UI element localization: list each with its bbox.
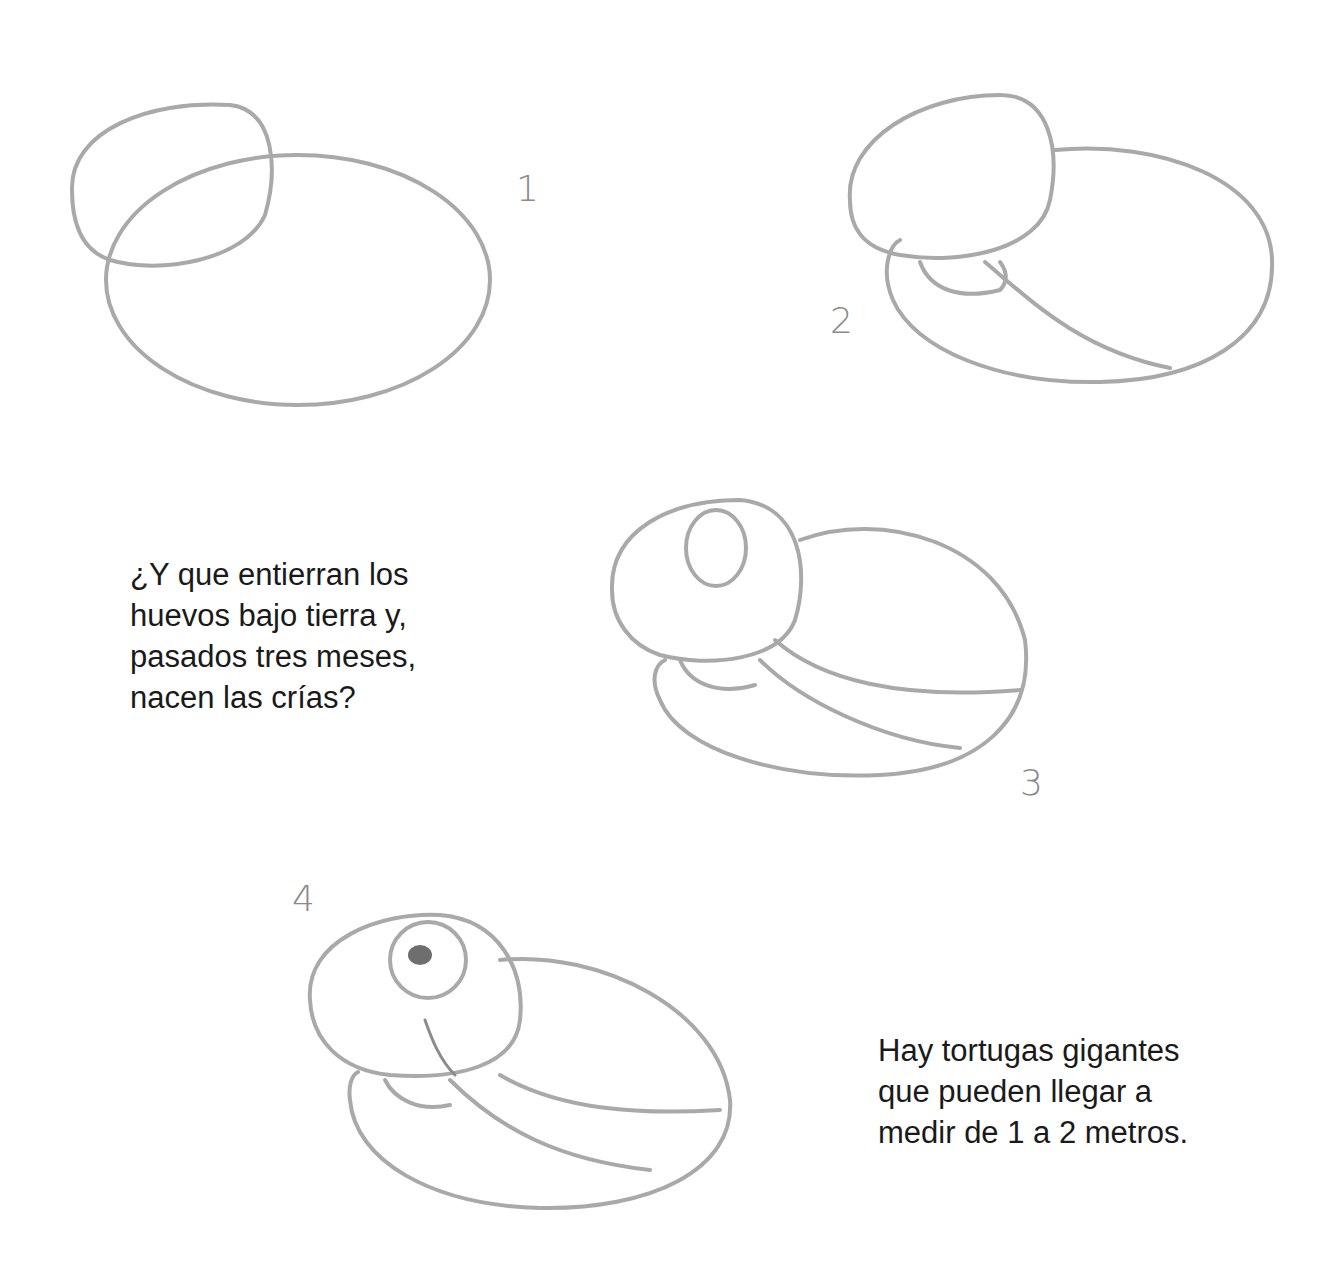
caption-giant-turtles: Hay tortugas gigantes que pueden llegar … <box>878 1030 1188 1153</box>
step-1-sketch <box>72 104 490 405</box>
caption-eggs: ¿Y que entierran los huevos bajo tierra … <box>130 554 416 718</box>
step-2-sketch <box>850 95 1272 382</box>
step-number-3: 3 <box>1020 762 1043 803</box>
step-3-sketch <box>612 500 1026 776</box>
step-number-4: 4 <box>292 878 315 919</box>
step-number-2: 2 <box>830 300 853 341</box>
step-4-sketch <box>310 915 730 1208</box>
step-number-1: 1 <box>516 168 539 209</box>
